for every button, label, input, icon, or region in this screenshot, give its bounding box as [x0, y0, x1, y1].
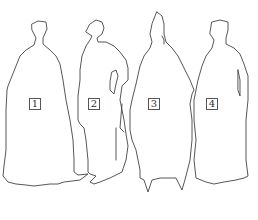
figure-1-outline [3, 21, 88, 186]
figure-3-outline [130, 12, 194, 192]
figure-label-4: 4 [206, 98, 218, 110]
figure-2-outline [78, 20, 128, 184]
figure-label-1: 1 [29, 98, 41, 110]
silhouettes [0, 0, 258, 220]
figure-label-3: 3 [148, 98, 160, 110]
figure-4-outline [194, 20, 248, 184]
figure-4-sleeve-detail [238, 70, 240, 96]
figure-diagram: 1 2 3 4 [0, 0, 258, 220]
figure-3-mitre-detail [162, 36, 164, 44]
figure-2-hand-detail [110, 70, 118, 94]
figure-label-2: 2 [88, 98, 100, 110]
